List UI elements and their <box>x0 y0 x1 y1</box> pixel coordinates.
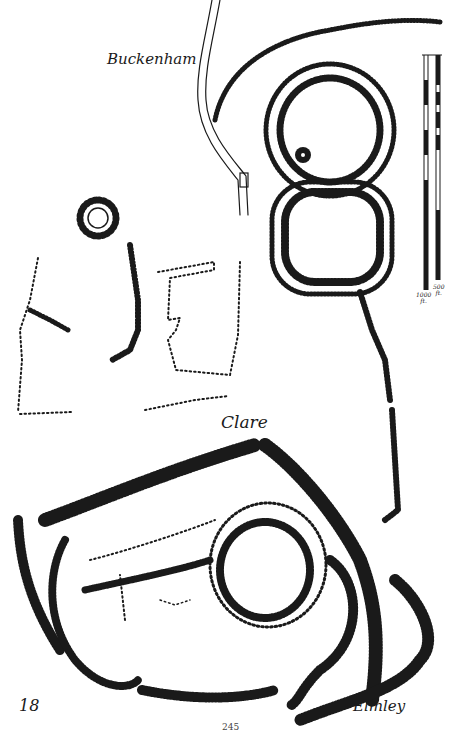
buckenham-plan <box>198 0 440 520</box>
elmley-plan <box>18 445 428 720</box>
scale-label-500ft: 500 ft. <box>433 284 444 296</box>
site-label-elmley: Elmley <box>353 697 405 715</box>
page-number: 245 <box>222 722 239 732</box>
site-label-buckenham: Buckenham <box>107 50 197 68</box>
scale-label-1000ft: 1000 ft. <box>416 292 431 304</box>
scale-bars <box>422 55 442 290</box>
site-label-clare: Clare <box>221 412 268 432</box>
figure-number: 18 <box>19 696 39 715</box>
clare-plan <box>18 200 240 414</box>
